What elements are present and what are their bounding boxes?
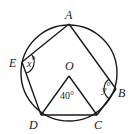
label-o: O <box>65 59 74 73</box>
label-a: A <box>64 8 73 22</box>
label-d: D <box>28 118 38 132</box>
label-b: B <box>118 86 126 100</box>
label-e: E <box>8 56 17 70</box>
angle-label-o: 40° <box>60 90 74 101</box>
angle-label-y: y° <box>101 81 110 95</box>
angle-label-x: x° <box>26 55 35 69</box>
circle-geometry-diagram: A E O B D C x° y° 40° <box>0 0 134 134</box>
label-c: C <box>94 118 103 132</box>
segment-ae <box>22 24 69 62</box>
segment-cb <box>97 89 116 115</box>
